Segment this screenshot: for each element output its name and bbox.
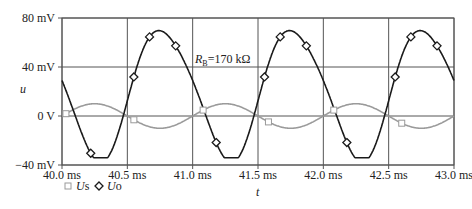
diamond-marker-icon [172,42,180,50]
square-marker-icon [200,107,206,113]
waveform-chart: 80 mV40 mV0 V−40 mV 40.0 ms40.5 ms41.0 m… [0,0,472,209]
uo-series-markers [87,33,441,157]
square-marker-icon [399,120,405,126]
x-tick-label: 41.5 ms [239,168,277,182]
y-axis-label: u [20,82,26,96]
diamond-marker-icon [391,73,399,81]
rb-annotation: RB=170 kΩ [194,52,250,68]
x-tick-label: 43.0 ms [435,168,472,182]
square-marker-icon [131,117,137,123]
diamond-marker-icon [302,42,310,50]
x-tick-label: 42.0 ms [304,168,342,182]
square-marker-icon [65,183,71,189]
diamond-marker-icon [130,73,138,81]
diamond-marker-icon [433,42,441,50]
us-series-markers [63,107,405,126]
y-tick-label: 40 mV [22,60,55,74]
x-tick-label: 42.5 ms [370,168,408,182]
diamond-marker-icon [95,182,103,190]
annotation-value: =170 kΩ [208,52,251,66]
diamond-marker-icon [212,139,220,147]
y-tick-label: 0 V [38,109,56,123]
x-tick-label: 41.0 ms [174,168,212,182]
square-marker-icon [63,111,69,117]
square-marker-icon [331,107,337,113]
square-marker-icon [265,119,271,125]
diamond-marker-icon [261,73,269,81]
x-axis-label: t [256,185,260,199]
grid-lines [58,18,454,169]
diamond-marker-icon [343,139,351,147]
diamond-marker-icon [87,149,95,157]
y-tick-label: 80 mV [22,11,55,25]
legend-uo: Uo [107,179,122,193]
legend-us: Us [76,179,90,193]
